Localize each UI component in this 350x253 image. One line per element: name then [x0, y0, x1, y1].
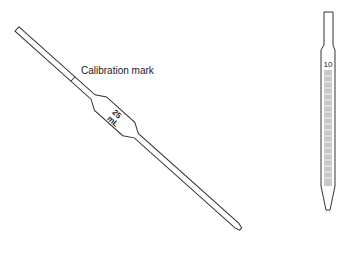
- volumetric-pipette: 25 mL Calibration mark: [11, 22, 247, 236]
- graduation-scale: [324, 70, 332, 186]
- pipettes-diagram: 25 mL Calibration mark 10: [0, 0, 350, 253]
- graduated-pipette: 10: [321, 12, 335, 210]
- top-graduation-label: 10: [324, 60, 333, 69]
- volumetric-pipette-outline: [11, 22, 247, 235]
- calibration-mark-label: Calibration mark: [81, 65, 155, 76]
